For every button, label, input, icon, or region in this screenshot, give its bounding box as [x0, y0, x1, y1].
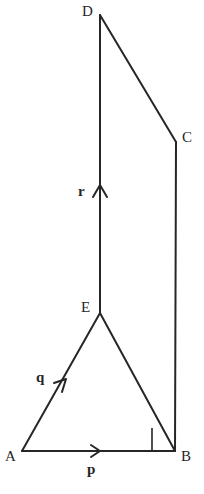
- geometry-figure: A B C D E p q r: [0, 0, 204, 494]
- vertex-label-d: D: [82, 4, 93, 19]
- edge-A-E: [22, 313, 100, 451]
- vertex-label-b: B: [181, 449, 191, 464]
- vertex-label-c: C: [182, 130, 192, 145]
- vector-label-r: r: [78, 184, 85, 199]
- edge-D-C: [100, 15, 176, 142]
- vertex-label-a: A: [5, 449, 16, 464]
- figure-canvas: [0, 0, 204, 494]
- figure-edges: [22, 15, 176, 451]
- vector-label-q: q: [36, 370, 44, 385]
- vertex-label-e: E: [81, 300, 90, 315]
- vector-label-p: p: [87, 462, 95, 477]
- edge-C-B: [175, 142, 176, 451]
- edge-E-B: [100, 313, 175, 451]
